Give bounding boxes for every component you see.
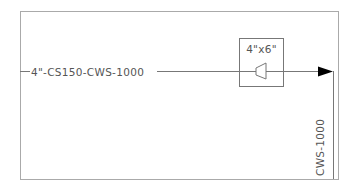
pipe-label: 4"-CS150-CWS-1000: [31, 66, 144, 78]
reducer-icon: [256, 63, 266, 79]
drawing-frame: [21, 12, 339, 180]
branch-label: CWS-1000: [314, 119, 326, 176]
pipe-diagram: 4"-CS150-CWS-1000 4"x6" CWS-1000: [0, 0, 357, 189]
reducer-label: 4"x6": [246, 43, 277, 55]
flow-arrow-icon: [318, 67, 333, 77]
